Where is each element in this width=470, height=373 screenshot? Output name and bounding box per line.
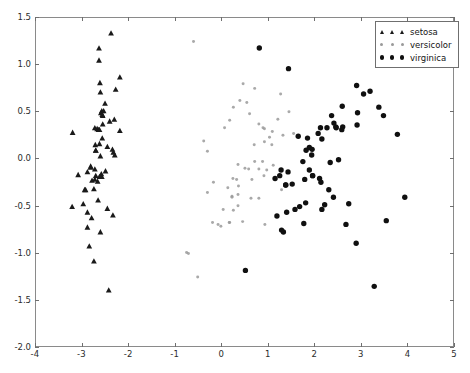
data-point	[354, 83, 359, 88]
legend-item-versicolor[interactable]: versicolor	[379, 38, 454, 51]
y-tick-mark	[450, 206, 454, 207]
data-point	[247, 168, 250, 171]
x-tick-label: 3	[358, 349, 364, 359]
data-point	[283, 182, 288, 187]
data-point	[102, 101, 108, 106]
data-point	[108, 30, 114, 35]
data-point	[292, 132, 295, 135]
data-point	[280, 188, 283, 191]
data-point	[196, 275, 199, 278]
data-point	[243, 268, 248, 273]
data-point	[228, 221, 231, 224]
data-point	[381, 113, 386, 118]
data-point	[296, 134, 301, 139]
legend-key-virginica	[379, 55, 405, 59]
data-point	[91, 258, 97, 263]
data-point	[93, 147, 99, 152]
data-point	[104, 206, 110, 211]
data-point	[89, 215, 95, 220]
data-point	[318, 180, 323, 185]
data-point	[243, 167, 246, 170]
data-point	[285, 169, 290, 174]
x-tick-mark	[268, 17, 269, 21]
data-point	[265, 169, 268, 172]
data-point	[104, 144, 110, 149]
y-tick-mark	[450, 17, 454, 18]
data-point	[303, 200, 308, 205]
x-tick-label: 5	[451, 349, 457, 359]
data-point	[263, 223, 266, 226]
y-tick-label: 0.0	[31, 153, 45, 163]
x-tick-mark	[361, 17, 362, 21]
data-point	[70, 130, 76, 135]
y-tick-mark	[450, 300, 454, 301]
data-point	[230, 196, 233, 199]
data-point	[238, 99, 241, 102]
data-point	[241, 220, 244, 223]
x-tick-mark	[128, 17, 129, 21]
x-tick-label: -2	[124, 349, 133, 359]
data-point	[257, 45, 262, 50]
x-tick-mark	[407, 343, 408, 347]
data-point	[361, 91, 366, 96]
legend[interactable]: setosa versicolor virginica	[375, 21, 459, 68]
data-point	[270, 143, 273, 146]
x-tick-mark	[128, 343, 129, 347]
data-point	[301, 221, 306, 226]
legend-item-setosa[interactable]: setosa	[379, 25, 454, 38]
data-point	[272, 164, 275, 167]
data-point	[222, 208, 225, 211]
data-point	[106, 287, 112, 292]
data-point	[284, 210, 289, 215]
x-tick-mark	[82, 343, 83, 347]
data-point	[237, 163, 240, 166]
data-point	[339, 127, 344, 132]
data-point	[75, 172, 81, 177]
series-virginica	[243, 45, 408, 289]
x-tick-mark	[221, 17, 222, 21]
data-point	[367, 89, 372, 94]
data-point	[274, 213, 279, 218]
data-point	[328, 160, 333, 165]
data-point	[242, 82, 245, 85]
legend-label-versicolor: versicolor	[410, 40, 451, 50]
x-tick-mark	[221, 343, 222, 347]
data-point	[336, 157, 341, 162]
data-point	[226, 186, 229, 189]
data-point	[262, 126, 265, 129]
data-point	[232, 106, 235, 109]
legend-key-setosa	[379, 30, 405, 34]
data-point	[95, 197, 101, 202]
x-tick-mark	[361, 343, 362, 347]
data-point	[85, 169, 91, 174]
data-point	[237, 184, 240, 187]
data-point	[319, 136, 324, 141]
data-point	[217, 223, 220, 226]
data-point	[333, 124, 338, 129]
data-point	[376, 104, 381, 109]
x-tick-label: 4	[405, 349, 411, 359]
data-point	[262, 174, 265, 177]
data-point	[372, 284, 377, 289]
data-point	[309, 152, 314, 157]
y-tick-mark	[450, 253, 454, 254]
legend-label-setosa: setosa	[410, 27, 438, 37]
legend-item-virginica[interactable]: virginica	[379, 51, 454, 64]
data-point	[237, 193, 240, 196]
data-point	[92, 142, 98, 147]
data-point	[322, 202, 327, 207]
data-point	[290, 181, 295, 186]
data-point	[250, 178, 253, 181]
data-point	[305, 135, 310, 140]
data-point	[187, 252, 190, 255]
data-point	[353, 241, 358, 246]
data-point	[319, 207, 324, 212]
data-point	[212, 181, 215, 184]
data-point	[80, 201, 86, 206]
data-point	[232, 209, 235, 212]
y-tick-label: 0.5	[31, 106, 45, 116]
data-point	[85, 224, 91, 229]
data-point	[268, 136, 271, 139]
data-point	[343, 222, 348, 227]
data-point	[206, 191, 209, 194]
